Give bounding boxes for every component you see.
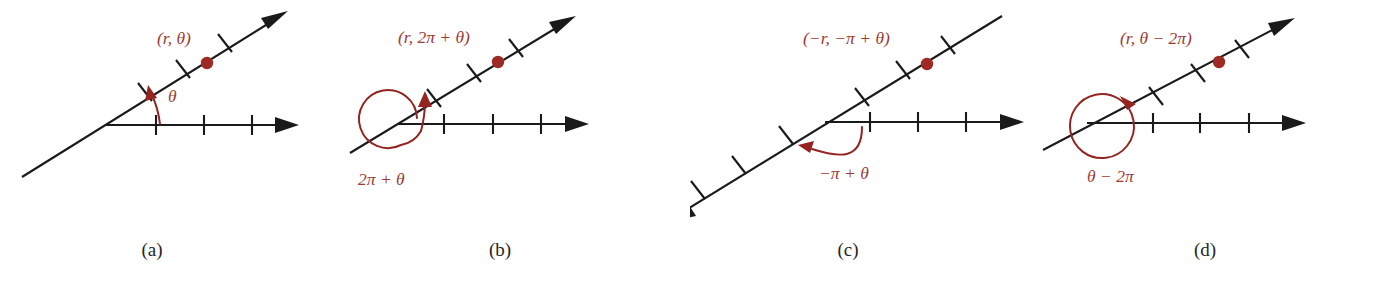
panel-d: (r, θ − 2π) θ − 2π (d): [1035, 0, 1380, 281]
panel-b: (r, 2π + θ) 2π + θ (b): [345, 0, 690, 281]
panel-b-loop-arc: [359, 90, 421, 148]
panel-a-angle-label: θ: [168, 86, 177, 106]
panel-b-point-dot: [492, 56, 504, 68]
panel-a-x-axis-arrowhead: [275, 117, 299, 133]
panel-c-caption: (c): [837, 239, 858, 261]
panel-c-angle-label: −π + θ: [819, 163, 869, 183]
panel-c-ray-tick-down-3: [691, 181, 705, 199]
panel-d-ray-arrowhead: [1268, 18, 1295, 36]
panel-d-x-axis-arrowhead: [1282, 115, 1306, 131]
panel-c-x-axis-arrowhead: [1000, 114, 1024, 130]
panel-a-caption: (a): [141, 239, 162, 261]
panel-b-point-label: (r, 2π + θ): [398, 27, 470, 47]
polar-coordinates-figure: (r, θ) θ (a) (r, 2π + θ) 2π + θ: [0, 0, 1380, 281]
panel-b-ray-arrowhead: [549, 16, 576, 34]
panel-a: (r, θ) θ (a): [0, 0, 345, 281]
panel-d-caption: (d): [1194, 239, 1216, 261]
panel-b-angle-label: 2π + θ: [358, 169, 405, 189]
panel-c-ray-tick-down-2: [732, 156, 746, 174]
panel-d-point-label: (r, θ − 2π): [1120, 28, 1192, 48]
panel-c-point-label: (−r, −π + θ): [803, 28, 890, 48]
panel-c-angle-arrowhead: [798, 141, 814, 153]
panel-a-ray-tick-2: [176, 60, 190, 78]
panel-c-angle-arc: [812, 127, 862, 155]
panel-c-ray-tick-up-1: [855, 88, 869, 106]
panel-b-caption: (b): [489, 239, 511, 261]
panel-d-point-dot: [1213, 56, 1225, 68]
panel-a-point-label: (r, θ): [157, 28, 191, 48]
panel-d-angle-label: θ − 2π: [1087, 166, 1135, 186]
panel-b-ray-tick-2: [467, 64, 481, 82]
panel-c-point-dot: [921, 58, 933, 70]
panel-c: (−r, −π + θ) −π + θ (c): [690, 0, 1035, 281]
panel-b-x-axis-arrowhead: [565, 116, 589, 132]
panel-a-point-dot: [201, 57, 213, 69]
panel-c-ray-tick-down-1: [779, 126, 793, 144]
